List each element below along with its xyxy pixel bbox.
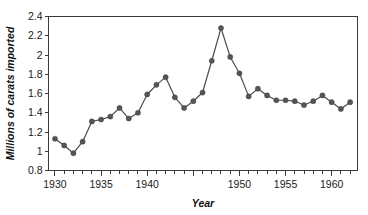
data-point [98,117,103,122]
x-tick-label: 1930 [43,178,67,190]
data-point [163,75,168,80]
data-point [89,119,94,124]
data-point [228,54,233,59]
series-markers [52,25,352,155]
data-point [172,95,177,100]
line-chart: 0.811.21.41.61.822.22.4 1930193519401950… [0,0,368,215]
y-tick-label: 2 [37,49,43,61]
x-axis-title: Year [192,197,215,209]
data-point [237,71,242,76]
data-point [154,82,159,87]
data-point [191,99,196,104]
data-point [62,143,67,148]
x-tick-label: 1960 [320,178,344,190]
data-point [218,25,223,30]
data-point [338,106,343,111]
data-point [71,151,76,156]
y-tick-label: 1.6 [28,87,43,99]
data-point [292,99,297,104]
y-axis-ticks: 0.811.21.41.61.822.22.4 [28,10,49,176]
data-point [320,93,325,98]
y-tick-label: 1.8 [28,68,43,80]
data-point [265,93,270,98]
data-point [108,114,113,119]
x-tick-label: 1950 [228,178,252,190]
data-point [329,100,334,105]
y-tick-label: 1.4 [28,106,43,118]
y-tick-label: 2.4 [28,10,43,22]
data-point [135,110,140,115]
y-axis-title: Millions of carats imported [4,26,16,160]
x-tick-label: 1940 [136,178,160,190]
y-tick-label: 2.2 [28,29,43,41]
data-point [145,92,150,97]
data-point [301,102,306,107]
data-point [311,99,316,104]
y-tick-label: 0.8 [28,164,43,176]
data-point [126,116,131,121]
y-tick-label: 1.2 [28,126,43,138]
data-point [283,98,288,103]
x-tick-label: 1935 [89,178,113,190]
data-point [274,98,279,103]
x-axis-ticks: 193019351940195019551960 [43,171,350,190]
data-point [117,105,122,110]
data-point [209,58,214,63]
y-tick-label: 1 [37,145,43,157]
data-point [80,139,85,144]
data-series [52,25,352,155]
data-point [52,136,57,141]
data-point [181,105,186,110]
data-point [246,94,251,99]
x-tick-label: 1955 [274,178,298,190]
data-point [255,86,260,91]
data-point [348,100,353,105]
chart-figure: 0.811.21.41.61.822.22.4 1930193519401950… [0,0,368,215]
data-point [200,90,205,95]
